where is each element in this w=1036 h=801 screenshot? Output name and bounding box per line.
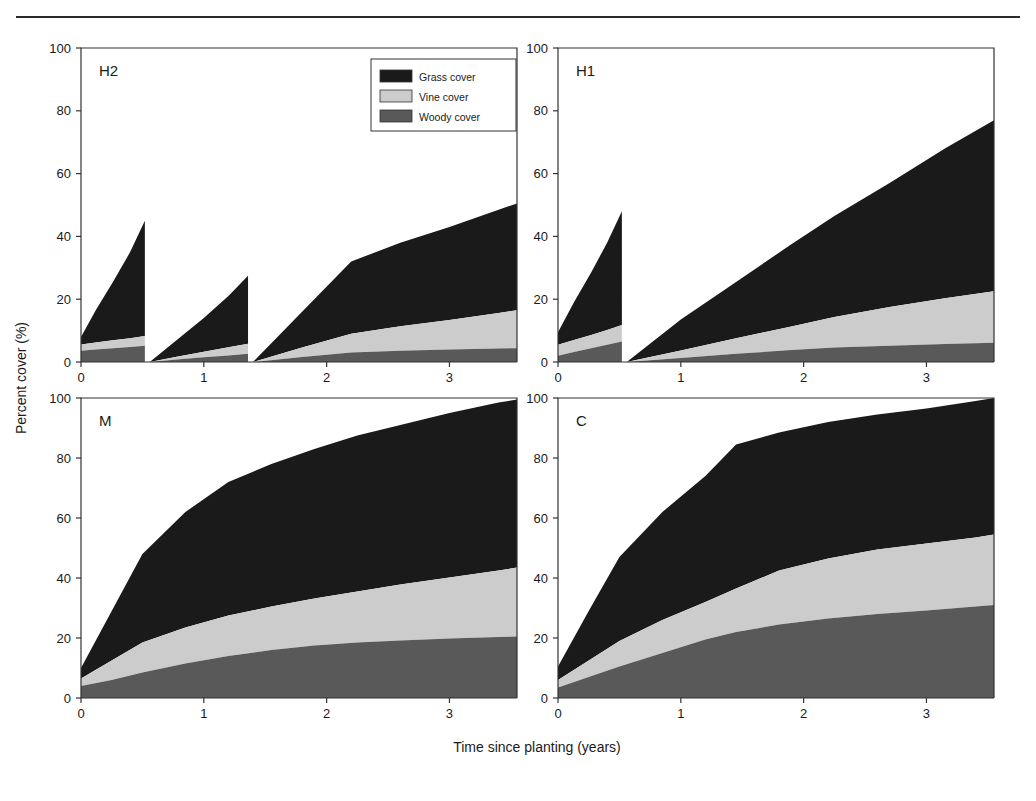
x-tick-label-C-1: 1 <box>677 706 684 721</box>
x-tick-label-M-2: 2 <box>323 706 330 721</box>
panel-H1: 0204060801000123H1 <box>526 41 994 386</box>
y-tick-label-C-0: 0 <box>541 691 548 706</box>
x-tick-label-H2-2: 2 <box>323 370 330 385</box>
y-tick-label-M-0: 0 <box>64 691 71 706</box>
panel-label-H2: H2 <box>99 62 118 79</box>
panel-label-C: C <box>576 412 587 429</box>
y-tick-label-H2-20: 20 <box>57 292 71 307</box>
x-tick-label-H1-1: 1 <box>677 370 684 385</box>
x-tick-label-H1-2: 2 <box>800 370 807 385</box>
y-tick-label-M-80: 80 <box>57 451 71 466</box>
areas-H1 <box>558 120 994 362</box>
areas-H2 <box>81 203 517 362</box>
y-tick-label-H1-80: 80 <box>534 103 548 118</box>
y-tick-label-H2-80: 80 <box>57 103 71 118</box>
x-tick-label-H2-0: 0 <box>77 370 84 385</box>
y-tick-label-M-100: 100 <box>49 391 71 406</box>
legend-label-woody-cover: Woody cover <box>419 111 481 123</box>
y-tick-label-C-40: 40 <box>534 571 548 586</box>
y-axis-label: Percent cover (%) <box>13 322 29 434</box>
x-tick-label-H2-3: 3 <box>446 370 453 385</box>
areas-C <box>558 398 994 698</box>
x-tick-label-C-0: 0 <box>554 706 561 721</box>
y-tick-label-H1-20: 20 <box>534 292 548 307</box>
area-H2-grass-cover-seg0 <box>81 221 145 345</box>
x-tick-label-C-3: 3 <box>923 706 930 721</box>
legend-label-grass-cover: Grass cover <box>419 71 476 83</box>
areas-M <box>81 400 517 699</box>
y-tick-label-H2-60: 60 <box>57 166 71 181</box>
x-tick-label-H1-0: 0 <box>554 370 561 385</box>
y-tick-label-C-80: 80 <box>534 451 548 466</box>
x-tick-label-H2-1: 1 <box>200 370 207 385</box>
x-tick-label-H1-3: 3 <box>923 370 930 385</box>
y-tick-label-H2-40: 40 <box>57 229 71 244</box>
x-tick-label-C-2: 2 <box>800 706 807 721</box>
y-tick-label-H1-60: 60 <box>534 166 548 181</box>
legend: Grass coverVine coverWoody cover <box>371 59 516 131</box>
panel-M: 0204060801000123M <box>49 391 517 722</box>
panel-label-M: M <box>99 412 112 429</box>
area-H1-grass-cover-seg0 <box>558 211 622 344</box>
x-tick-label-M-0: 0 <box>77 706 84 721</box>
y-tick-label-C-60: 60 <box>534 511 548 526</box>
y-tick-label-M-40: 40 <box>57 571 71 586</box>
y-tick-label-H2-100: 100 <box>49 41 71 56</box>
y-tick-label-M-60: 60 <box>57 511 71 526</box>
y-tick-label-H2-0: 0 <box>64 355 71 370</box>
legend-swatch-vine-cover <box>380 90 412 102</box>
figure-container: 0204060801000123H20204060801000123H10204… <box>0 0 1036 801</box>
y-tick-label-M-20: 20 <box>57 631 71 646</box>
page-top-rule <box>16 16 1020 18</box>
panel-C: 0204060801000123C <box>526 391 994 722</box>
multi-panel-area-chart: 0204060801000123H20204060801000123H10204… <box>0 0 1036 801</box>
y-tick-label-H1-100: 100 <box>526 41 548 56</box>
x-tick-label-M-1: 1 <box>200 706 207 721</box>
y-tick-label-H1-40: 40 <box>534 229 548 244</box>
y-tick-label-C-100: 100 <box>526 391 548 406</box>
panel-label-H1: H1 <box>576 62 595 79</box>
legend-label-vine-cover: Vine cover <box>419 91 469 103</box>
legend-swatch-woody-cover <box>380 110 412 122</box>
y-tick-label-H1-0: 0 <box>541 355 548 370</box>
x-axis-label: Time since planting (years) <box>453 739 621 755</box>
legend-swatch-grass-cover <box>380 70 412 82</box>
y-tick-label-C-20: 20 <box>534 631 548 646</box>
x-tick-label-M-3: 3 <box>446 706 453 721</box>
